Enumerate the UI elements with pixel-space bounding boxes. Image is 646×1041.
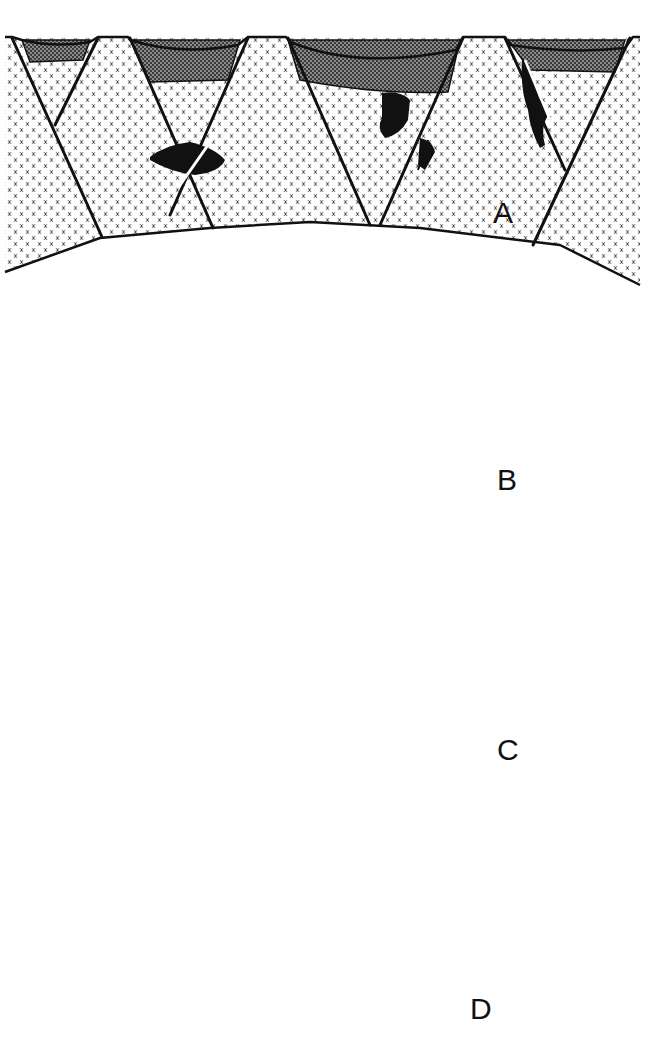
- geologic-cross-sections-figure: [0, 0, 646, 1041]
- panel-label-a: A: [493, 198, 513, 228]
- panel-a: [5, 37, 640, 285]
- panel-label-c: C: [497, 735, 519, 765]
- panel-label-b: B: [497, 465, 517, 495]
- panel-label-d: D: [470, 994, 492, 1024]
